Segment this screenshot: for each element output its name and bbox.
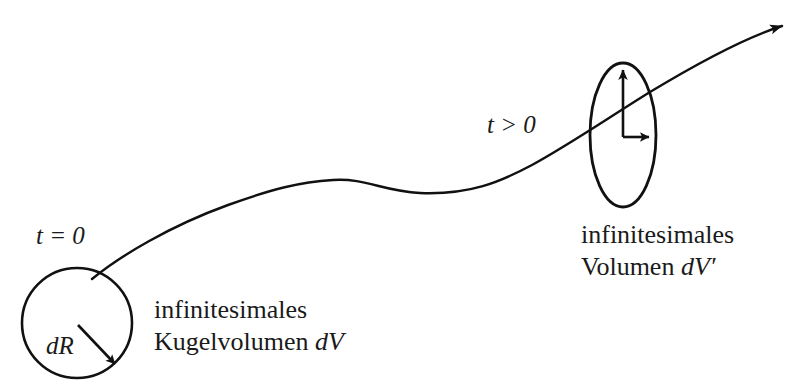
label-t-equals-zero: t = 0 xyxy=(36,221,85,252)
right-caption-word: Volumen xyxy=(581,252,681,281)
right-caption-line-1: infinitesimales xyxy=(581,219,734,251)
left-caption-line-2: Kugelvolumen dV xyxy=(154,326,344,358)
left-caption-symbol-dV: dV xyxy=(315,327,344,356)
physics-diagram-figure: t = 0 t > 0 dR infinitesimales Kugelvolu… xyxy=(0,0,807,389)
label-dR: dR xyxy=(46,331,74,362)
left-caption-word: Kugelvolumen xyxy=(154,327,315,356)
right-caption-symbol-dV: dV xyxy=(681,252,710,281)
right-caption-line-2: Volumen dV′ xyxy=(581,251,734,283)
right-caption: infinitesimales Volumen dV′ xyxy=(581,219,734,282)
left-caption: infinitesimales Kugelvolumen dV xyxy=(154,294,344,357)
right-caption-prime-mark: ′ xyxy=(710,252,716,281)
diagram-canvas xyxy=(0,0,807,389)
infinitesimal-sphere-circle xyxy=(22,268,132,378)
dR-arrow xyxy=(78,325,115,364)
label-t-greater-zero: t > 0 xyxy=(487,110,536,141)
left-caption-line-1: infinitesimales xyxy=(154,294,344,326)
